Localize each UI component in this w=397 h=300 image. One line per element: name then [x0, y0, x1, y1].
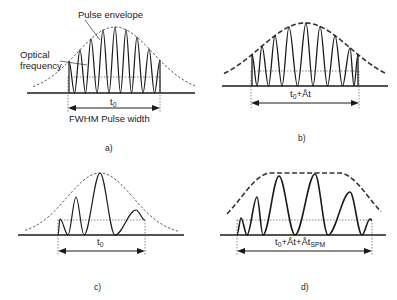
arrowhead-right-icon — [364, 248, 372, 254]
arrowhead-left-icon — [68, 105, 76, 111]
optical-carrier-wave — [237, 174, 372, 235]
envelope-leader-line — [85, 20, 100, 40]
optical-frequency-leader-line — [60, 61, 87, 65]
panel-c-width-label: t0 — [97, 237, 103, 247]
optical-frequency-label-line1: Optical — [20, 50, 50, 60]
panel-d-caption: d) — [301, 283, 309, 292]
width-delta: +Åt — [296, 88, 311, 99]
arrowhead-left-icon — [58, 248, 66, 254]
pulse-envelope-curve — [224, 23, 386, 74]
fwhm-pulse-width-label: FWHM Pulse width — [69, 114, 150, 124]
optical-frequency-label-line2: frequency — [20, 61, 62, 71]
pulse-envelope-label: Pulse envelope — [78, 10, 143, 20]
arrowhead-left-icon — [251, 100, 259, 106]
arrowhead-right-icon — [351, 100, 359, 106]
width-delta: +Åt+Åt — [281, 236, 310, 247]
arrowhead-right-icon — [137, 248, 145, 254]
width-subscript: 0 — [113, 101, 117, 108]
panel-a-width-label: t0 — [110, 97, 116, 107]
diagram-canvas — [0, 0, 397, 300]
optical-carrier-wave — [69, 27, 160, 93]
panel-b-width-label: t0+Åt — [290, 89, 311, 99]
arrowhead-left-icon — [237, 248, 245, 254]
panel-c-caption: c) — [94, 283, 101, 292]
pulse-broadening-diagram: Pulse envelope Optical frequency t0 FWHM… — [0, 0, 397, 300]
panel-a-caption: a) — [105, 144, 113, 153]
pulse-envelope-curve — [25, 173, 178, 231]
arrowhead-right-icon — [152, 105, 160, 111]
optical-carrier-wave — [252, 23, 358, 86]
optical-carrier-wave — [58, 173, 145, 235]
width-subscript: 0 — [100, 241, 104, 248]
spm-subscript: SPM — [311, 241, 326, 248]
panel-d-width-label: t0+Åt+ÅtSPM — [275, 237, 325, 247]
panel-b-caption: b) — [298, 134, 306, 143]
